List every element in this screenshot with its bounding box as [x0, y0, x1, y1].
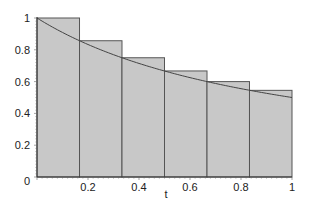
riemann-bar-5: [207, 82, 249, 177]
riemann-bar-2: [80, 41, 122, 177]
x-tick-label: 0.4: [131, 181, 146, 193]
riemann-bar-1: [37, 18, 80, 177]
bars-group: [37, 18, 292, 177]
y-tick-label: 0.4: [15, 107, 30, 119]
x-tick-label: 1: [289, 181, 295, 193]
x-axis-title: t: [164, 188, 167, 200]
origin-label: 0: [24, 175, 30, 187]
y-tick-label: 1: [24, 12, 30, 24]
x-tick-label: 0.8: [233, 181, 248, 193]
riemann-sum-chart: 0.20.40.60.810.20.40.60.81 0 t: [0, 0, 312, 205]
y-tick-label: 0.2: [15, 139, 30, 151]
y-tick-label: 0.8: [15, 44, 30, 56]
riemann-bar-3: [122, 58, 165, 177]
x-tick-label: 0.6: [182, 181, 197, 193]
riemann-bar-6: [249, 90, 292, 177]
y-tick-label: 0.6: [15, 76, 30, 88]
riemann-bar-4: [165, 71, 208, 177]
x-tick-label: 0.2: [80, 181, 95, 193]
